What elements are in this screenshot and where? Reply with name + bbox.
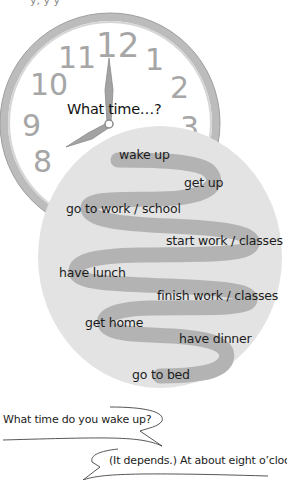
routine-item-have-dinner: have dinner [179,331,252,346]
clock-number-9: 9 [22,108,41,143]
routine-item-have-lunch: have lunch [59,265,126,280]
dialogue-answer: (It depends.) At about eight o’clock. [109,454,287,467]
clock-number-11: 11 [58,40,96,75]
clock-number-2: 2 [170,70,189,105]
routine-item-get-up: get up [184,175,223,190]
routine-item-wake-up: wake up [119,147,170,162]
routine-item-get-home: get home [85,315,143,330]
routine-item-go-to-bed: go to bed [132,367,190,382]
clock-title: What time…? [67,101,161,117]
clock-number-8: 8 [33,144,52,179]
clock-number-12: 12 [96,25,139,65]
routine-item-finish-work: finish work / classes [157,288,278,303]
clock-center-icon [105,120,113,128]
routine-item-go-to-work: go to work / school [66,201,181,216]
dialogue-question: What time do you wake up? [3,413,151,426]
routine-item-start-work: start work / classes [166,233,283,248]
clock-number-1: 1 [145,42,164,77]
